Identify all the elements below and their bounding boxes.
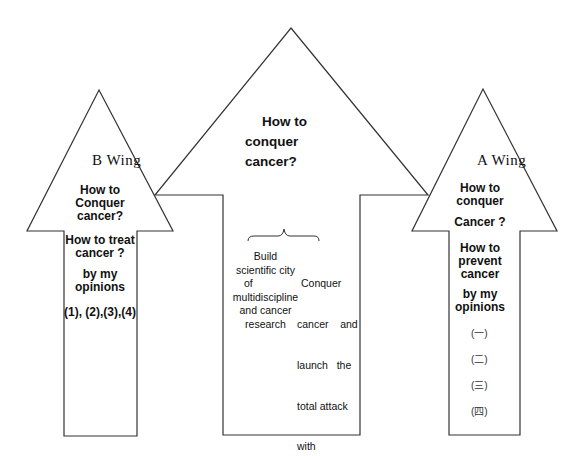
right-branch-line: with [294,440,360,454]
a-wing-numeral-2: (二) [471,351,488,366]
b-wing-title: B Wing [92,152,141,169]
a-wing-numeral-1: (一) [471,325,488,340]
left-branch-line: Build [228,250,303,264]
center-arrow-shape [155,28,428,435]
b-wing-line: opinions [50,281,150,294]
right-branch-line: total attack [294,400,360,414]
a-wing-opinions: by my opinions [430,288,530,314]
center-question-line3: cancer? [245,152,307,172]
b-wing-line: cancer ? [50,247,150,260]
left-branch-line: research [228,318,303,332]
center-question-line1: How to [245,112,307,132]
center-question: How to conquer cancer? [245,112,307,172]
center-question-line2: conquer [245,132,307,152]
a-wing-numeral-4: (四) [471,403,488,418]
right-branch-line: cancer and [294,318,360,332]
b-wing-arrow-shape [27,90,173,436]
a-wing-question-1: How to conquer [430,182,530,208]
a-wing-question-2: How to prevent cancer [430,242,530,281]
left-branch-line: multidiscipline [228,291,303,305]
a-wing-line: conquer [430,195,530,208]
a-wing-title: A Wing [477,152,526,169]
right-branch-line: Conquer [294,277,360,291]
a-wing-numeral-3: (三) [471,377,488,392]
b-wing-question-1: How to Conquer cancer? [50,184,150,223]
left-branch-line: of [228,277,303,291]
right-branch-text: Conquer cancer and launch the total atta… [294,250,360,456]
left-branch-line: and cancer [228,304,303,318]
b-wing-question-2: How to treat cancer ? [50,234,150,260]
left-branch-text: Build scientific city of multidiscipline… [228,250,303,332]
a-wing-question-1b: Cancer ? [430,216,530,229]
b-wing-opinions: by my opinions [50,268,150,294]
right-branch-line: launch the [294,359,360,373]
b-wing-list: (1), (2),(3),(4) [50,306,150,319]
b-wing-line: cancer? [50,210,150,223]
left-branch-line: scientific city [228,264,303,278]
a-wing-line: cancer [430,268,530,281]
a-wing-line: opinions [430,301,530,314]
